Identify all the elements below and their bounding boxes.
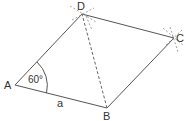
- point-label-c: C: [176, 32, 184, 44]
- side-label-a: a: [57, 97, 64, 109]
- angle-label: 60°: [28, 74, 43, 85]
- point-label-d: D: [77, 0, 85, 12]
- point-label-a: A: [4, 79, 12, 91]
- side-cd: [82, 14, 174, 38]
- side-da: [15, 14, 82, 85]
- point-label-b: B: [103, 110, 110, 121]
- diagonal-bd: [82, 14, 107, 108]
- rhombus-diagram: A B C D 60° a: [0, 0, 186, 121]
- side-bc: [107, 38, 174, 108]
- diagram-canvas: A B C D 60° a: [0, 0, 186, 121]
